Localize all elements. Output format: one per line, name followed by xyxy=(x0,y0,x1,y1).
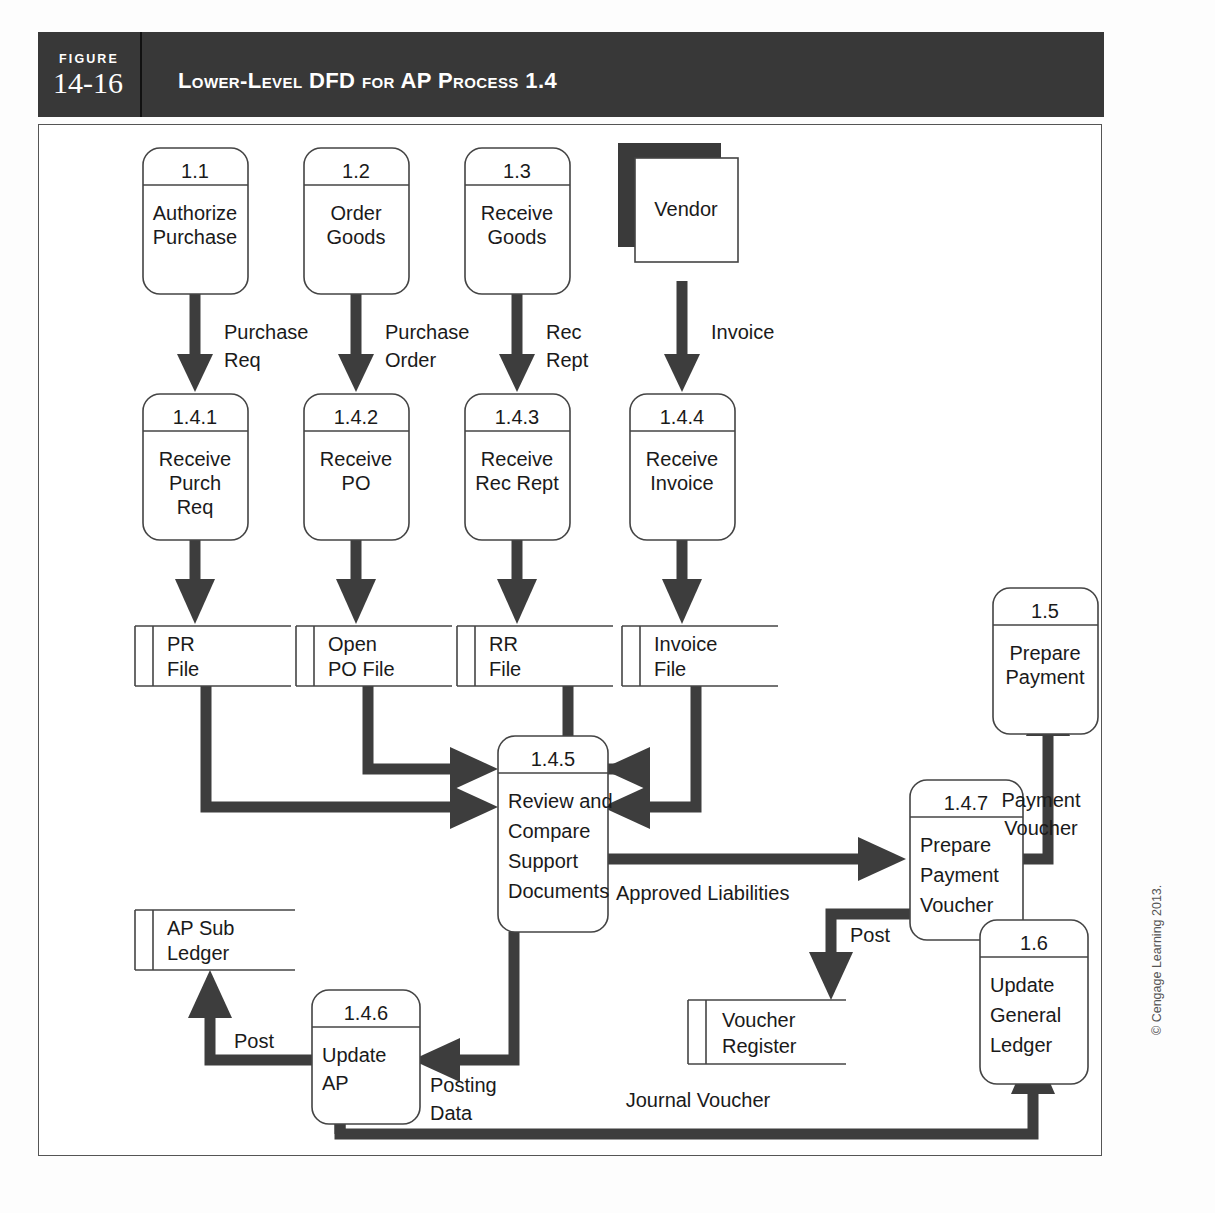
node-process-1-4-3[interactable]: 1.4.3 Receive Rec Rept xyxy=(465,394,570,540)
flow-label-line2: Rept xyxy=(546,349,589,371)
flow-invoice xyxy=(664,281,700,392)
process-id: 1.4.2 xyxy=(334,406,378,428)
process-label-line2: PO xyxy=(342,472,371,494)
figure-word: FIGURE xyxy=(59,52,119,66)
process-label-line4: Documents xyxy=(508,880,609,902)
figure-number: 14-16 xyxy=(53,68,123,98)
node-process-1-4-6[interactable]: 1.4.6 Update AP xyxy=(312,990,420,1124)
process-id: 1.4.6 xyxy=(344,1002,388,1024)
flow-to-pr-file xyxy=(175,540,215,624)
node-process-1-1[interactable]: 1.1 Authorize Purchase xyxy=(143,148,248,294)
node-process-1-4-5[interactable]: 1.4.5 Review and Compare Support Documen… xyxy=(498,736,613,932)
process-label-line1: Authorize xyxy=(153,202,238,224)
flow-label-line1: Purchase xyxy=(224,321,309,343)
flow-label-purchase-req: Purchase Req xyxy=(224,321,309,371)
process-id: 1.3 xyxy=(503,160,531,182)
flow-posting-data xyxy=(412,932,514,1082)
figure-header: FIGURE 14-16 Lower-Level DFD for AP Proc… xyxy=(38,32,1104,117)
flow-label-line1: Journal Voucher xyxy=(626,1089,771,1111)
datastore-label-line2: File xyxy=(167,658,199,680)
flow-label-rec-rept: Rec Rept xyxy=(546,321,589,371)
flow-label-line2: Order xyxy=(385,349,436,371)
flow-label-post-ap: Post xyxy=(234,1030,274,1052)
flow-label-invoice: Invoice xyxy=(711,321,774,343)
datastore-label-line1: RR xyxy=(489,633,518,655)
process-label-line1: Review and xyxy=(508,790,613,812)
flow-to-rr-file xyxy=(497,540,537,624)
flow-label-line1: Payment xyxy=(1002,789,1081,811)
flow-label-purchase-order: Purchase Order xyxy=(385,321,470,371)
process-id: 1.6 xyxy=(1020,932,1048,954)
process-label-line1: Receive xyxy=(481,202,553,224)
figure-title: Lower-Level DFD for AP Process 1.4 xyxy=(178,68,557,94)
process-label-line2: AP xyxy=(322,1072,349,1094)
copyright-notice: © Cengage Learning 2013. xyxy=(1150,855,1164,1035)
process-label-line1: Prepare xyxy=(1009,642,1080,664)
process-label-line2: Rec Rept xyxy=(475,472,559,494)
node-datastore-open-po-file[interactable]: Open PO File xyxy=(296,626,452,686)
process-label-line3: Voucher xyxy=(920,894,994,916)
process-label-line2: Invoice xyxy=(650,472,713,494)
datastore-label-line1: Voucher xyxy=(722,1009,796,1031)
dfd-diagram: 1.1 Authorize Purchase 1.2 Order Goods 1… xyxy=(38,124,1102,1156)
process-label-line1: Receive xyxy=(646,448,718,470)
flow-label-line1: Approved Liabilities xyxy=(616,882,789,904)
node-process-1-4-4[interactable]: 1.4.4 Receive Invoice xyxy=(630,394,735,540)
process-id: 1.2 xyxy=(342,160,370,182)
process-label-line1: Receive xyxy=(481,448,553,470)
node-datastore-pr-file[interactable]: PR File xyxy=(135,626,291,686)
datastore-label-line1: Invoice xyxy=(654,633,717,655)
process-label-line2: Goods xyxy=(327,226,386,248)
node-datastore-invoice-file[interactable]: Invoice File xyxy=(622,626,778,686)
node-entity-vendor[interactable]: Vendor xyxy=(618,143,738,262)
process-id: 1.4.5 xyxy=(531,748,575,770)
node-datastore-rr-file[interactable]: RR File xyxy=(457,626,613,686)
datastore-label-line2: File xyxy=(654,658,686,680)
process-label-line2: Payment xyxy=(920,864,999,886)
datastore-label-line2: File xyxy=(489,658,521,680)
node-datastore-voucher-register[interactable]: Voucher Register xyxy=(688,1000,846,1064)
figure-title-cell: Lower-Level DFD for AP Process 1.4 xyxy=(142,32,1104,117)
node-process-1-4-1[interactable]: 1.4.1 Receive Purch Req xyxy=(143,394,248,540)
process-label-line3: Ledger xyxy=(990,1034,1053,1056)
node-process-1-2[interactable]: 1.2 Order Goods xyxy=(304,148,409,294)
flow-to-open-po-file xyxy=(336,540,376,624)
flow-openpo-to-review xyxy=(368,686,498,791)
process-label-line1: Update xyxy=(322,1044,387,1066)
node-datastore-ap-sub-ledger[interactable]: AP Sub Ledger xyxy=(135,910,295,970)
flow-purchase-order xyxy=(338,294,374,392)
node-process-1-3[interactable]: 1.3 Receive Goods xyxy=(465,148,570,294)
datastore-label-line2: PO File xyxy=(328,658,395,680)
process-label-line1: Order xyxy=(330,202,381,224)
flow-label-posting-data: Posting Data xyxy=(430,1074,497,1124)
process-id: 1.1 xyxy=(181,160,209,182)
entity-label: Vendor xyxy=(654,198,718,220)
flow-label-line1: Invoice xyxy=(711,321,774,343)
flow-label-line1: Rec xyxy=(546,321,582,343)
process-label-line3: Support xyxy=(508,850,578,872)
process-id: 1.4.3 xyxy=(495,406,539,428)
process-label-line2: General xyxy=(990,1004,1061,1026)
node-process-1-5[interactable]: 1.5 Prepare Payment xyxy=(993,588,1098,734)
process-id: 1.4.1 xyxy=(173,406,217,428)
flow-label-journal-voucher: Journal Voucher xyxy=(626,1089,771,1111)
process-label-line3: Req xyxy=(177,496,214,518)
node-process-1-4-2[interactable]: 1.4.2 Receive PO xyxy=(304,394,409,540)
process-id: 1.4.7 xyxy=(944,792,988,814)
node-process-1-6[interactable]: 1.6 Update General Ledger xyxy=(980,920,1088,1084)
flow-label-line2: Req xyxy=(224,349,261,371)
datastore-label-line2: Ledger xyxy=(167,942,230,964)
process-label-line2: Goods xyxy=(488,226,547,248)
flow-label-line2: Data xyxy=(430,1102,473,1124)
process-label-line2: Payment xyxy=(1006,666,1085,688)
process-id: 1.5 xyxy=(1031,600,1059,622)
flow-approved-liabilities xyxy=(608,837,906,881)
process-label-line1: Receive xyxy=(159,448,231,470)
flow-label-line1: Post xyxy=(850,924,890,946)
process-id: 1.4.4 xyxy=(660,406,704,428)
flow-rec-rept xyxy=(499,294,535,392)
flow-label-line2: Voucher xyxy=(1004,817,1078,839)
flow-label-post-voucher: Post xyxy=(850,924,890,946)
flow-to-invoice-file xyxy=(662,540,702,624)
figure-number-cell: FIGURE 14-16 xyxy=(38,32,142,117)
